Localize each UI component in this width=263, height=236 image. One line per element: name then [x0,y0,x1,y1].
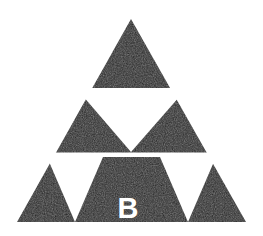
sierpinski-triangle-figure: B [0,0,263,236]
label-b: B [118,192,139,224]
figure-container: B [0,0,263,236]
